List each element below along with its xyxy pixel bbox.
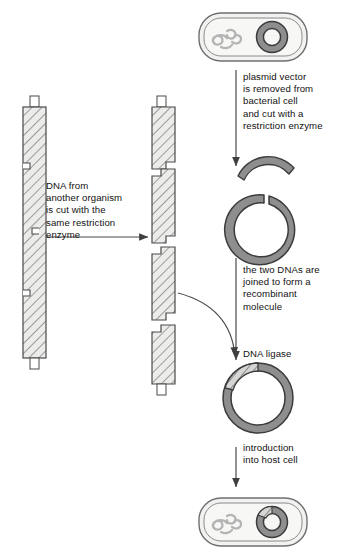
- caption-dna-ligase: DNA ligase: [243, 348, 339, 360]
- cut-plasmid: [225, 195, 295, 265]
- arrow-fragments-to-recombinant: [178, 293, 235, 356]
- caption-introduction-host-cell: introduction into host cell: [243, 442, 339, 466]
- donor-dna-intact: [23, 96, 46, 369]
- recombinant-plasmid-icon-bottom: [257, 506, 288, 537]
- caption-plasmid-vector: plasmid vector is removed from bacterial…: [243, 71, 341, 132]
- caption-join-dnas: the two DNAs are joined to form a recomb…: [243, 264, 339, 313]
- donor-dna-fragments: [152, 96, 175, 395]
- excised-plasmid-arc: [238, 157, 294, 180]
- recombinant-plasmid: [223, 363, 293, 433]
- caption-donor-dna: DNA from another organism is cut with th…: [46, 180, 150, 241]
- diagram-canvas: plasmid vector is removed from bacterial…: [0, 0, 344, 552]
- host-cell-bottom: [199, 498, 307, 546]
- plasmid-icon-top: [257, 22, 288, 53]
- bacterial-cell-top: [199, 13, 307, 61]
